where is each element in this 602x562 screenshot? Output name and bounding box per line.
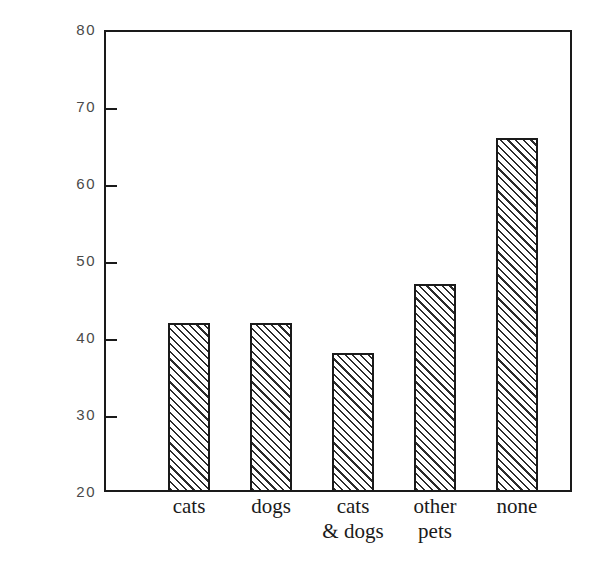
bar-chart-figure: Mean physical symptom score, 6 months 20…: [0, 0, 602, 562]
x-axis-tick-label: cats: [144, 494, 234, 519]
x-axis-label-line1: other: [413, 494, 456, 518]
y-axis-tick-label: 60: [54, 176, 96, 191]
x-axis-tick-labels: catsdogscats& dogsotherpetsnone: [104, 494, 572, 558]
bars-container: [104, 30, 572, 492]
x-axis-tick-label: dogs: [226, 494, 316, 519]
x-axis-tick-label: cats& dogs: [308, 494, 398, 544]
y-axis-tick-label: 80: [54, 22, 96, 37]
y-axis-tick-labels: 20304050607080: [50, 30, 96, 492]
bar: [496, 138, 538, 492]
x-axis-label-line1: cats: [173, 494, 206, 518]
x-axis-label-line1: dogs: [251, 494, 291, 518]
y-axis-tick-label: 40: [54, 330, 96, 345]
x-axis-label-line1: cats: [337, 494, 370, 518]
x-axis-tick-label: otherpets: [390, 494, 480, 544]
y-axis-tick-label: 20: [54, 484, 96, 499]
y-axis-tick-label: 30: [54, 407, 96, 422]
bar: [332, 353, 374, 492]
bar: [168, 323, 210, 492]
bar: [414, 284, 456, 492]
x-axis-tick-label: none: [472, 494, 562, 519]
x-axis-label-line2: & dogs: [308, 519, 398, 544]
bar: [250, 323, 292, 492]
x-axis-label-line2: pets: [390, 519, 480, 544]
y-axis-tick-label: 70: [54, 99, 96, 114]
y-axis-tick-label: 50: [54, 253, 96, 268]
x-axis-label-line1: none: [497, 494, 538, 518]
